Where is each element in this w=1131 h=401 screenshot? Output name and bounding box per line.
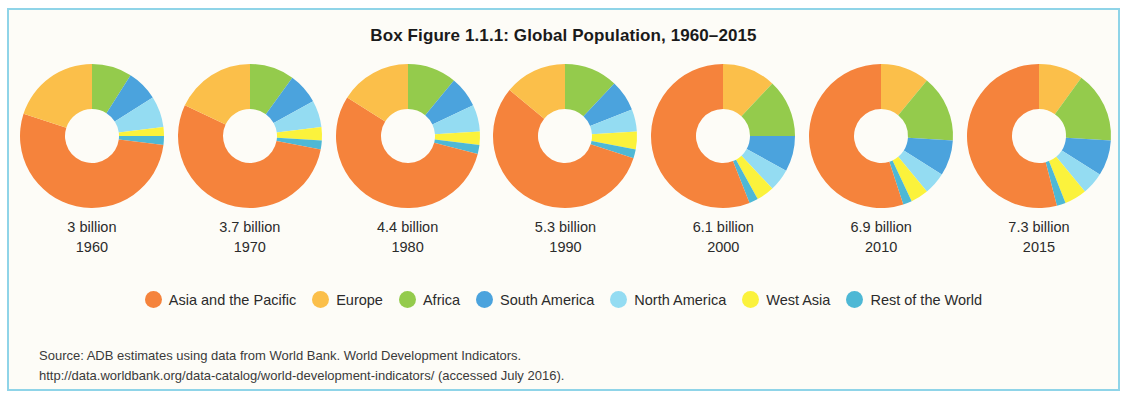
donut-svg-1990 xyxy=(489,60,641,212)
source-note: Source: ADB estimates using data from Wo… xyxy=(39,346,564,386)
donut-chart-2010: 6.9 billion2010 xyxy=(805,60,957,257)
legend-swatch-icon xyxy=(312,291,329,308)
donut-population-label: 6.9 billion xyxy=(851,218,912,238)
donut-year-label: 1980 xyxy=(377,238,438,258)
legend-swatch-icon xyxy=(610,291,627,308)
donut-year-label: 2000 xyxy=(693,238,754,258)
donut-svg-2015 xyxy=(963,60,1115,212)
donut-chart-2015: 7.3 billion2015 xyxy=(963,60,1115,257)
legend-item: Africa xyxy=(399,291,460,308)
donut-caption: 3.7 billion1970 xyxy=(219,218,280,257)
donut-caption: 6.1 billion2000 xyxy=(693,218,754,257)
donut-population-label: 5.3 billion xyxy=(535,218,596,238)
donut-chart-1990: 5.3 billion1990 xyxy=(489,60,641,257)
donut-caption: 7.3 billion2015 xyxy=(1008,218,1069,257)
legend-item: North America xyxy=(610,291,726,308)
donut-population-label: 4.4 billion xyxy=(377,218,438,238)
figure-title: Box Figure 1.1.1: Global Population, 196… xyxy=(9,26,1118,46)
donut-year-label: 2015 xyxy=(1008,238,1069,258)
donut-population-label: 3 billion xyxy=(67,218,116,238)
donut-chart-2000: 6.1 billion2000 xyxy=(647,60,799,257)
donut-year-label: 1970 xyxy=(219,238,280,258)
legend-item: Rest of the World xyxy=(846,291,982,308)
source-line-1: Source: ADB estimates using data from Wo… xyxy=(39,346,564,366)
legend-label: Asia and the Pacific xyxy=(169,292,296,308)
donut-svg-2010 xyxy=(805,60,957,212)
donut-year-label: 2010 xyxy=(851,238,912,258)
donut-chart-1980: 4.4 billion1980 xyxy=(332,60,484,257)
donut-year-label: 1990 xyxy=(535,238,596,258)
legend-swatch-icon xyxy=(742,291,759,308)
legend-swatch-icon xyxy=(846,291,863,308)
donut-chart-1960: 3 billion1960 xyxy=(16,60,168,257)
legend-label: South America xyxy=(500,292,594,308)
donut-population-label: 6.1 billion xyxy=(693,218,754,238)
legend-item: Asia and the Pacific xyxy=(145,291,296,308)
figure-container: Box Figure 1.1.1: Global Population, 196… xyxy=(7,8,1120,391)
legend-label: West Asia xyxy=(766,292,830,308)
legend-label: Europe xyxy=(336,292,383,308)
donut-population-label: 7.3 billion xyxy=(1008,218,1069,238)
legend-label: Rest of the World xyxy=(870,292,982,308)
legend-swatch-icon xyxy=(476,291,493,308)
donut-svg-1980 xyxy=(332,60,484,212)
donut-caption: 3 billion1960 xyxy=(67,218,116,257)
legend-swatch-icon xyxy=(399,291,416,308)
donut-svg-1970 xyxy=(174,60,326,212)
legend-swatch-icon xyxy=(145,291,162,308)
donut-caption: 5.3 billion1990 xyxy=(535,218,596,257)
donut-population-label: 3.7 billion xyxy=(219,218,280,238)
donut-svg-1960 xyxy=(16,60,168,212)
donut-caption: 4.4 billion1980 xyxy=(377,218,438,257)
donut-chart-1970: 3.7 billion1970 xyxy=(174,60,326,257)
source-line-2: http://data.worldbank.org/data-catalog/w… xyxy=(39,366,564,386)
donut-caption: 6.9 billion2010 xyxy=(851,218,912,257)
donut-year-label: 1960 xyxy=(67,238,116,258)
chart-legend: Asia and the PacificEuropeAfricaSouth Am… xyxy=(9,291,1118,308)
legend-label: Africa xyxy=(423,292,460,308)
donut-svg-2000 xyxy=(647,60,799,212)
legend-item: Europe xyxy=(312,291,383,308)
donut-chart-row: 3 billion19603.7 billion19704.4 billion1… xyxy=(13,60,1118,275)
legend-label: North America xyxy=(634,292,726,308)
legend-item: West Asia xyxy=(742,291,830,308)
legend-item: South America xyxy=(476,291,594,308)
